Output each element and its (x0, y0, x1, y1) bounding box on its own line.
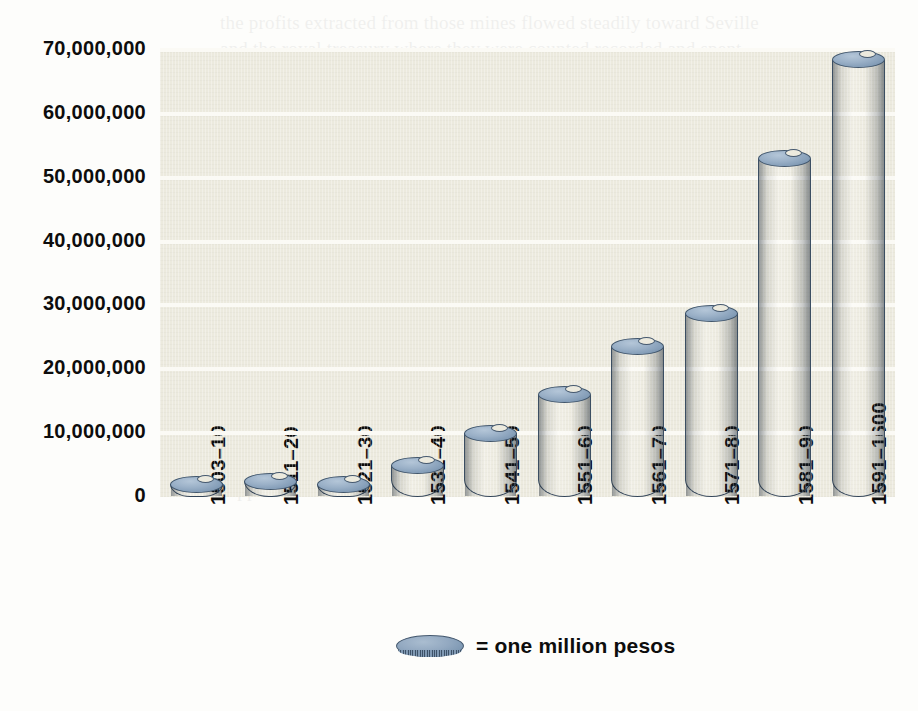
legend-label: = one million pesos (476, 634, 675, 658)
coin-stack-body (464, 433, 517, 497)
y-axis-tick-label: 0 (0, 484, 146, 507)
bar-coin-stack (170, 476, 223, 497)
y-axis-tick-label: 20,000,000 (0, 356, 146, 379)
y-axis-tick-label: 10,000,000 (0, 420, 146, 443)
bar-coin-stack (685, 305, 738, 497)
legend: = one million pesos (396, 634, 675, 658)
y-axis-tick-label: 30,000,000 (0, 292, 146, 315)
coin-stack-body (611, 347, 664, 497)
coin-top-notch (712, 304, 729, 312)
coin-stack-body (538, 395, 591, 497)
bar-coin-stack (538, 386, 591, 497)
coin-top-notch (859, 50, 876, 58)
bar-coin-stack (758, 150, 811, 497)
coin-top-notch (197, 475, 214, 483)
bar-coin-stack (611, 338, 664, 497)
coin-stack-body (685, 313, 738, 497)
y-axis-tick-label: 70,000,000 (0, 37, 146, 60)
y-axis-tick-label: 60,000,000 (0, 101, 146, 124)
coin-top-notch (344, 475, 361, 483)
coin-disc-icon (396, 635, 464, 657)
bar-coin-stack (391, 457, 444, 497)
gridline (160, 112, 895, 116)
bar-coin-stack (244, 473, 297, 497)
bar-coin-stack (464, 425, 517, 497)
coin-stack-body (758, 159, 811, 497)
bar-coin-stack (317, 476, 370, 497)
coin-stack-bar-chart: 010,000,00020,000,00030,000,00040,000,00… (0, 0, 918, 711)
coin-top-notch (271, 472, 288, 480)
gridline (160, 48, 895, 52)
y-axis-tick-label: 50,000,000 (0, 165, 146, 188)
y-axis-tick-label: 40,000,000 (0, 229, 146, 252)
coin-stack-body (832, 60, 885, 497)
coin-top-notch (418, 456, 435, 464)
bar-coin-stack (832, 51, 885, 497)
coin-top-notch (491, 424, 508, 432)
